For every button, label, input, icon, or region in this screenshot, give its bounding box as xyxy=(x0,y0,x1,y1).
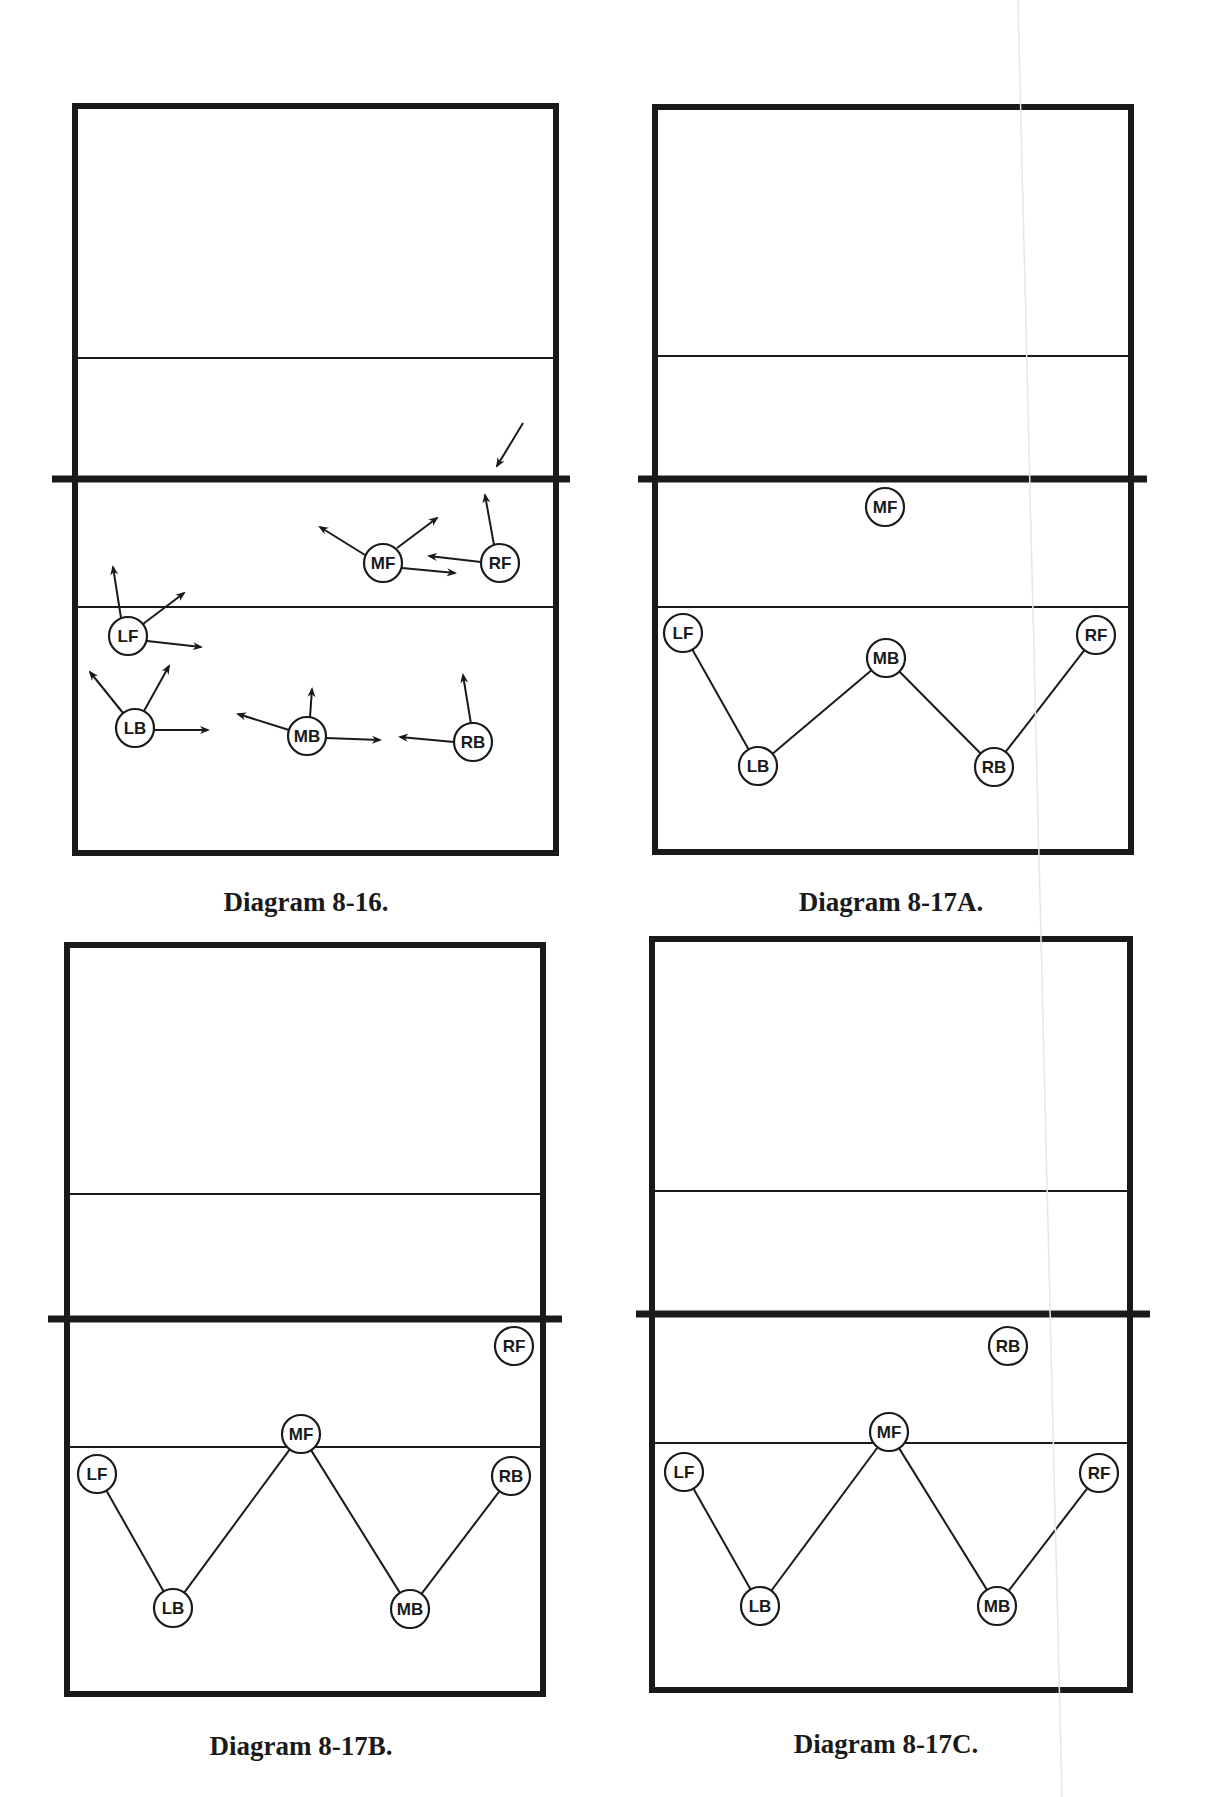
player-label: RB xyxy=(982,758,1007,777)
player-label: LF xyxy=(118,627,139,646)
player-rb: RB xyxy=(975,748,1013,786)
mf-arrow-up-right-icon xyxy=(397,518,437,548)
player-label: MF xyxy=(371,554,396,573)
player-rb: RB xyxy=(989,1327,1027,1365)
diagrams-layer: MFRFLFLBMBRBMFLFMBRFLBRBRFMFLFRBLBMBRBMF… xyxy=(48,106,1150,1694)
player-label: MB xyxy=(294,727,320,746)
player-label: MF xyxy=(877,1423,902,1442)
player-lf: LF xyxy=(78,1455,116,1493)
mb-arrow-up-icon xyxy=(310,689,312,717)
player-label: LF xyxy=(674,1463,695,1482)
coverage-line-lb-mb xyxy=(773,670,872,753)
caption-diagram-8-17b: Diagram 8-17B. xyxy=(210,1733,393,1760)
player-label: MF xyxy=(873,498,898,517)
coverage-line-mb-rf xyxy=(1009,1488,1088,1591)
player-rf: RF xyxy=(1080,1454,1118,1492)
player-lb: LB xyxy=(154,1589,192,1627)
player-mf: MF xyxy=(282,1415,320,1453)
lb-arrow-up-right-icon xyxy=(144,666,169,711)
player-label: RB xyxy=(996,1337,1021,1356)
player-rb: RB xyxy=(492,1457,530,1495)
player-mf: MF xyxy=(870,1413,908,1451)
lb-arrow-up-left-icon xyxy=(90,672,123,713)
mb-arrow-right-icon xyxy=(326,738,380,740)
player-lb: LB xyxy=(116,709,154,747)
player-label: LF xyxy=(87,1465,108,1484)
caption-diagram-8-16: Diagram 8-16. xyxy=(224,889,389,916)
coverage-line-lb-mf xyxy=(184,1449,289,1592)
player-label: MF xyxy=(289,1425,314,1444)
coverage-line-mf-mb xyxy=(899,1448,987,1590)
player-label: LB xyxy=(124,719,147,738)
mb-arrow-up-left-icon xyxy=(238,714,289,730)
coverage-line-rb-rf xyxy=(1006,650,1085,752)
incoming-ball-arrow-icon xyxy=(497,423,523,466)
player-lb: LB xyxy=(741,1587,779,1625)
mf-arrow-right-icon xyxy=(402,568,455,573)
coverage-line-lf-lb xyxy=(693,1489,750,1590)
player-label: MB xyxy=(873,649,899,668)
player-lf: LF xyxy=(109,617,147,655)
player-label: RB xyxy=(499,1467,524,1486)
player-label: RF xyxy=(503,1337,526,1356)
coverage-line-mb-rb xyxy=(899,671,980,753)
coverage-line-lf-lb xyxy=(106,1491,163,1592)
player-mf: MF xyxy=(364,544,402,582)
player-lb: LB xyxy=(739,747,777,785)
player-mb: MB xyxy=(978,1587,1016,1625)
player-rf: RF xyxy=(481,544,519,582)
player-label: MB xyxy=(397,1600,423,1619)
player-mb: MB xyxy=(288,717,326,755)
court-diagram-8-17a: MFLFMBRFLBRB xyxy=(638,107,1147,852)
player-label: LB xyxy=(749,1597,772,1616)
coverage-line-lf-lb xyxy=(692,650,748,750)
court-diagram-8-17c: RBMFLFRFLBMB xyxy=(636,939,1150,1690)
player-mb: MB xyxy=(391,1590,429,1628)
caption-diagram-8-17a: Diagram 8-17A. xyxy=(799,889,983,916)
player-rf: RF xyxy=(495,1327,533,1365)
court-diagram-8-16: MFRFLFLBMBRB xyxy=(52,106,570,853)
player-rb: RB xyxy=(454,723,492,761)
player-lf: LF xyxy=(665,1453,703,1491)
lf-arrow-up-right-icon xyxy=(143,593,184,624)
player-label: RF xyxy=(1088,1464,1111,1483)
mf-arrow-up-left-icon xyxy=(320,527,365,555)
player-label: RB xyxy=(461,733,486,752)
player-label: RF xyxy=(489,554,512,573)
player-label: RF xyxy=(1085,626,1108,645)
court-diagram-8-17b: RFMFLFRBLBMB xyxy=(48,945,562,1694)
player-lf: LF xyxy=(664,614,702,652)
rf-arrow-left-icon xyxy=(429,556,481,562)
player-label: LB xyxy=(747,757,770,776)
coverage-line-mb-rb xyxy=(421,1491,499,1594)
coverage-line-lb-mf xyxy=(771,1447,877,1590)
lf-arrow-right-icon xyxy=(147,641,201,647)
player-rf: RF xyxy=(1077,616,1115,654)
caption-diagram-8-17c: Diagram 8-17C. xyxy=(794,1731,978,1758)
player-label: LF xyxy=(673,624,694,643)
player-label: MB xyxy=(984,1597,1010,1616)
player-label: LB xyxy=(162,1599,185,1618)
rb-arrow-up-icon xyxy=(463,675,471,724)
coverage-line-mf-mb xyxy=(311,1450,400,1593)
lf-arrow-up-icon xyxy=(113,567,121,618)
player-mf: MF xyxy=(866,488,904,526)
rb-arrow-left-icon xyxy=(400,737,454,742)
volleyball-diagrams-canvas: MFRFLFLBMBRBMFLFMBRFLBRBRFMFLFRBLBMBRBMF… xyxy=(0,0,1205,1797)
player-mb: MB xyxy=(867,639,905,677)
rf-arrow-up-icon xyxy=(485,495,494,545)
